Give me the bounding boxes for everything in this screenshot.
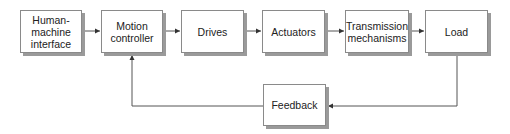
node-drives: Drives xyxy=(181,10,244,53)
node-human-machine-interface: Human- machine interface xyxy=(20,10,82,53)
node-feedback: Feedback xyxy=(263,84,326,126)
edge-load-to-feedback xyxy=(328,56,457,106)
node-load: Load xyxy=(425,10,488,53)
node-motion-controller: Motion controller xyxy=(101,10,163,53)
node-transmission-mechanisms: Transmission mechanisms xyxy=(345,10,409,53)
edge-feedback-to-motion-controller xyxy=(132,55,263,106)
node-actuators: Actuators xyxy=(262,10,325,53)
